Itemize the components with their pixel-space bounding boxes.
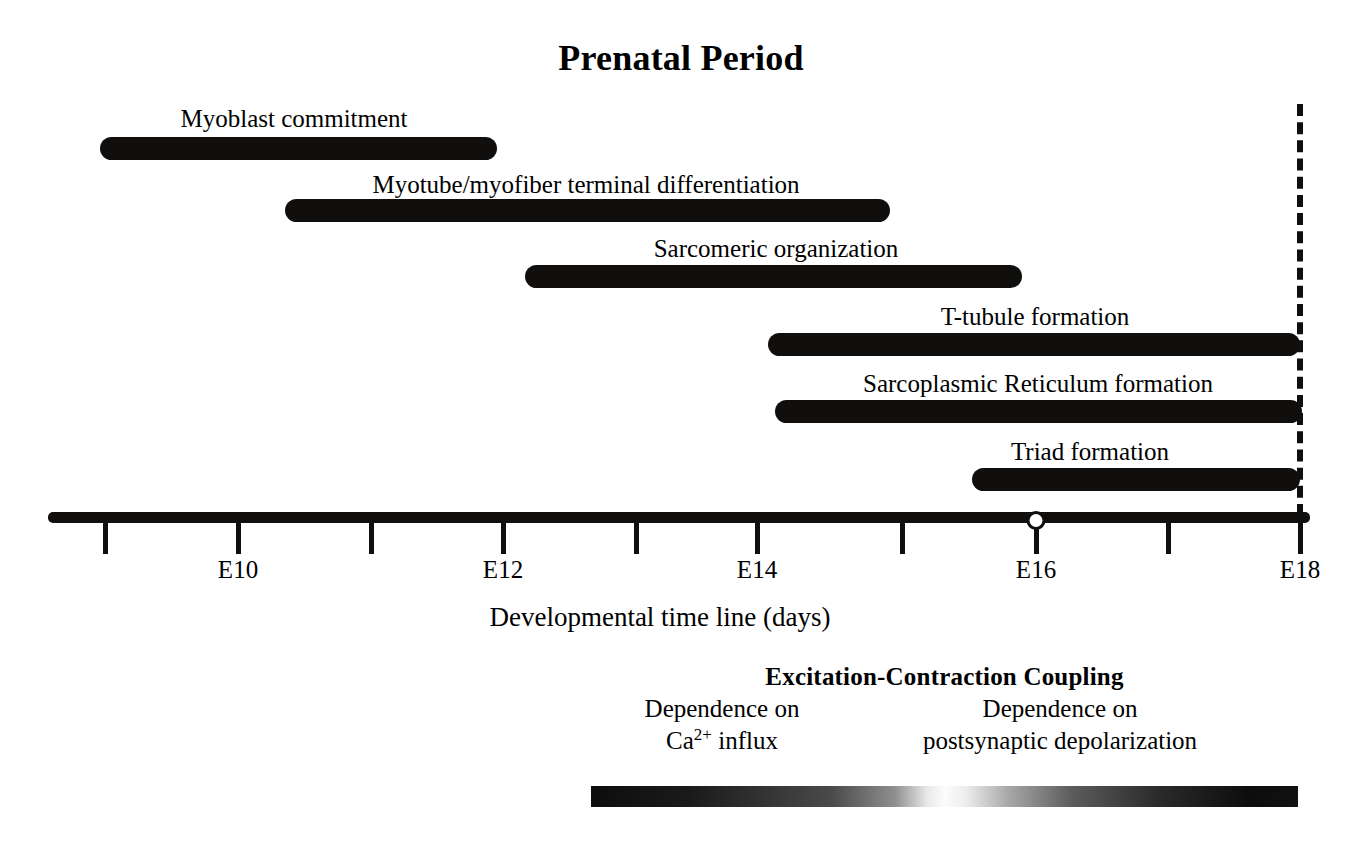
ca-influx-label: Dependence on Ca2+ influx	[645, 693, 800, 757]
axis-tick	[900, 521, 905, 554]
page-title: Prenatal Period	[0, 37, 1362, 79]
axis-tick	[501, 521, 506, 554]
axis-tick	[103, 521, 108, 554]
ca-influx-superscript: 2+	[694, 725, 712, 744]
excitation-contraction-title: Excitation-Contraction Coupling	[591, 663, 1298, 691]
term-boundary-dashed-line	[1297, 104, 1303, 516]
axis-tick-label: E18	[1280, 556, 1320, 584]
axis-tick-label: E12	[483, 556, 523, 584]
timeline-row-bar	[285, 199, 890, 222]
axis-tick	[755, 521, 760, 554]
axis-tick	[1298, 521, 1303, 554]
timeline-row-bar	[775, 400, 1302, 423]
axis-tick	[236, 521, 241, 554]
postsynaptic-label-line2: postsynaptic depolarization	[923, 725, 1197, 757]
axis-tick	[369, 521, 374, 554]
timeline-row-label: Sarcoplasmic Reticulum formation	[863, 369, 1213, 399]
timeline-row-label: Sarcomeric organization	[654, 234, 899, 264]
axis-caption: Developmental time line (days)	[0, 602, 1320, 633]
axis-tick-label: E14	[737, 556, 777, 584]
ca-influx-label-line1: Dependence on	[645, 693, 800, 725]
ca-influx-prefix: Ca	[666, 727, 694, 754]
axis-tick	[634, 521, 639, 554]
postsynaptic-label-line1: Dependence on	[923, 693, 1197, 725]
axis-tick-label: E10	[218, 556, 258, 584]
timeline-row-bar	[972, 468, 1300, 491]
axis-tick-label: E16	[1016, 556, 1056, 584]
timeline-row-label: T-tubule formation	[941, 302, 1130, 332]
e16-circle-marker	[1027, 511, 1046, 530]
timeline-row-bar	[100, 137, 497, 160]
ca-influx-suffix: influx	[712, 727, 778, 754]
ec-coupling-gradient-bar	[591, 786, 1298, 807]
axis-tick	[1166, 521, 1171, 554]
prenatal-period-figure: Prenatal Period Myoblast commitmentMyotu…	[0, 0, 1362, 852]
ca-influx-label-line2: Ca2+ influx	[645, 725, 800, 757]
timeline-row-bar	[768, 333, 1300, 356]
timeline-row-label: Myotube/myofiber terminal differentiatio…	[372, 170, 799, 200]
timeline-row-label: Triad formation	[1011, 437, 1169, 467]
timeline-row-bar	[525, 265, 1022, 288]
timeline-row-label: Myoblast commitment	[180, 104, 407, 134]
postsynaptic-depolarization-label: Dependence on postsynaptic depolarizatio…	[923, 693, 1197, 757]
